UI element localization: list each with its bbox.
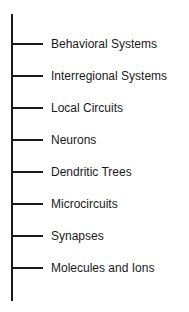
level-behavioral-systems: Behavioral Systems bbox=[11, 36, 157, 52]
level-label: Dendritic Trees bbox=[51, 164, 132, 180]
level-tick bbox=[11, 75, 43, 76]
level-interregional-systems: Interregional Systems bbox=[11, 68, 167, 84]
level-dendritic-trees: Dendritic Trees bbox=[11, 164, 132, 180]
level-label: Molecules and Ions bbox=[51, 260, 154, 276]
level-tick bbox=[11, 235, 43, 236]
level-tick bbox=[11, 43, 43, 44]
level-neurons: Neurons bbox=[11, 132, 96, 148]
level-label: Behavioral Systems bbox=[51, 36, 157, 52]
level-tick bbox=[11, 139, 43, 140]
level-microcircuits: Microcircuits bbox=[11, 196, 118, 212]
level-label: Interregional Systems bbox=[51, 68, 167, 84]
level-tick bbox=[11, 107, 43, 108]
level-tick bbox=[11, 267, 43, 268]
level-molecules-and-ions: Molecules and Ions bbox=[11, 260, 154, 276]
level-synapses: Synapses bbox=[11, 228, 104, 244]
vertical-axis-line bbox=[11, 14, 13, 301]
level-label: Neurons bbox=[51, 132, 96, 148]
level-tick bbox=[11, 203, 43, 204]
level-local-circuits: Local Circuits bbox=[11, 100, 123, 116]
level-label: Synapses bbox=[51, 228, 104, 244]
level-tick bbox=[11, 171, 43, 172]
level-label: Microcircuits bbox=[51, 196, 118, 212]
level-label: Local Circuits bbox=[51, 100, 123, 116]
